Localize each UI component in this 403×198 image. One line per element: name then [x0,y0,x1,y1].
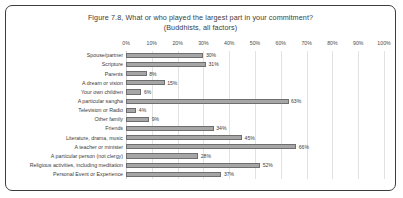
bar-value-label: 8% [149,70,156,79]
bar-row: Television or Radio4% [126,106,384,115]
bar-row: A teacher or minister66% [126,143,384,152]
category-label: Religious activities, including meditati… [30,161,123,170]
bar-row: Literature, drama, music45% [126,134,384,143]
category-label: Other family [94,115,123,124]
bar-value-label: 63% [291,97,301,106]
x-axis-tick-label: 90% [353,39,363,47]
x-axis-tick-label: 50% [250,39,260,47]
x-axis-tick-label: 30% [198,39,208,47]
bar-row: Other family9% [126,115,384,124]
bar [126,71,147,76]
category-label: Parents [105,70,123,79]
bar [126,99,289,104]
bar-value-label: 15% [167,79,177,88]
bar-row: A particular sangha63% [126,97,384,106]
x-axis-tick-label: 40% [224,39,234,47]
category-label: Television or Radio [78,106,123,115]
category-label: A dream or vision [82,79,123,88]
bar-row: A dream or vision15% [126,79,384,88]
chart-subtitle: (Buddhists, all factors) [6,23,395,33]
bar [126,144,296,149]
bar [126,53,203,58]
bar [126,117,149,122]
bar-row: Your own children6% [126,88,384,97]
gridline [384,51,385,179]
bar-value-label: 66% [299,143,309,152]
figure-frame: Figure 7.8, What or who played the large… [5,5,396,191]
bar-row: Parents8% [126,70,384,79]
x-axis-tick-label: 10% [147,39,157,47]
x-axis-tick-labels: 0%10%20%30%40%50%60%70%80%90%100% [126,39,384,49]
bar-row: Scripture31% [126,60,384,69]
bar-value-label: 31% [208,60,218,69]
category-label: Literature, drama, music [66,134,123,143]
category-label: A teacher or minister [74,143,123,152]
bar-row: Friends34% [126,124,384,133]
category-label: Spouse/partner [87,51,123,60]
x-axis-tick-label: 80% [327,39,337,47]
bar-value-label: 52% [263,161,273,170]
category-label: A particular sangha [78,97,123,106]
bar-row: A particular person (not clergy)28% [126,152,384,161]
bar [126,135,242,140]
category-label: Your own children [81,88,123,97]
bar-value-label: 37% [224,170,234,179]
bar-value-label: 6% [144,88,151,97]
plot-area: Spouse/partner30%Scripture31%Parents8%A … [126,51,384,179]
bar-value-label: 28% [201,152,211,161]
bar [126,163,260,168]
bar-row: Personal Event or Experience37% [126,170,384,179]
bar-chart: Figure 7.8, What or who played the large… [6,6,395,190]
bar-value-label: 9% [152,115,159,124]
chart-title-block: Figure 7.8, What or who played the large… [6,13,395,33]
bar-row: Religious activities, including meditati… [126,161,384,170]
bar-value-label: 34% [216,124,226,133]
bar [126,153,198,158]
category-label: Scripture [102,60,123,69]
x-axis-tick-label: 0% [122,39,130,47]
category-label: Personal Event or Experience [53,170,123,179]
bar [126,80,165,85]
bar [126,126,214,131]
category-label: Friends [105,124,123,133]
x-axis-tick-label: 100% [377,39,390,47]
chart-title: Figure 7.8, What or who played the large… [6,13,395,23]
x-axis-tick-label: 70% [301,39,311,47]
bar [126,172,221,177]
bar-row: Spouse/partner30% [126,51,384,60]
bar-value-label: 30% [206,51,216,60]
bar [126,62,206,67]
category-label: A particular person (not clergy) [51,152,123,161]
x-axis-tick-label: 60% [276,39,286,47]
bar-value-label: 4% [139,106,146,115]
bar [126,108,136,113]
bar-rows: Spouse/partner30%Scripture31%Parents8%A … [126,51,384,179]
bar [126,89,141,94]
x-axis-tick-label: 20% [172,39,182,47]
bar-value-label: 45% [245,134,255,143]
